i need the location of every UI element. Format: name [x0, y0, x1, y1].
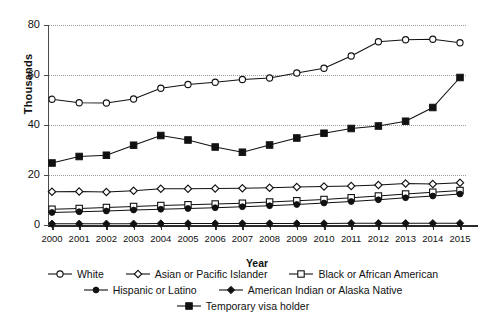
data-point [130, 142, 137, 149]
chart-legend: WhiteAsian or Pacific IslanderBlack or A… [10, 268, 476, 316]
data-point [457, 191, 463, 197]
data-point [321, 200, 327, 206]
series-layer [48, 25, 466, 225]
data-point [184, 185, 191, 192]
data-point [403, 195, 409, 201]
data-point [76, 100, 82, 106]
legend-marker-icon [177, 300, 201, 312]
data-point [185, 81, 191, 87]
data-point [103, 188, 110, 195]
data-point [456, 179, 463, 186]
data-point [131, 96, 137, 102]
legend-marker-icon [84, 284, 108, 296]
legend-row: Temporary visa holder [10, 300, 476, 312]
data-point [294, 70, 300, 76]
data-point [130, 187, 137, 194]
data-point [348, 53, 354, 59]
data-point [49, 160, 56, 167]
data-point [131, 207, 137, 213]
series-line [52, 183, 460, 192]
legend-label: Black or African American [318, 268, 438, 280]
y-tick-label: 40 [6, 118, 40, 130]
legend-item[interactable]: Hispanic or Latino [84, 284, 197, 296]
legend-marker-icon [219, 284, 243, 296]
data-point [158, 206, 164, 212]
data-point [293, 183, 300, 190]
data-point [320, 183, 327, 190]
data-point [267, 203, 273, 209]
legend-label: American Indian or Alaska Native [248, 284, 403, 296]
data-point [375, 123, 382, 130]
data-point [103, 152, 110, 159]
legend-label: Asian or Pacific Islander [155, 268, 268, 280]
series-line [52, 78, 460, 164]
series-3 [49, 187, 463, 212]
y-tick-label: 0 [6, 218, 40, 230]
legend-item[interactable]: Black or African American [289, 268, 438, 280]
legend-label: Temporary visa holder [206, 300, 309, 312]
data-point [212, 144, 219, 151]
data-point [348, 125, 355, 132]
data-point [157, 185, 164, 192]
plot-area: 020406080 200020012002200320042005200620… [48, 25, 466, 225]
data-point [375, 181, 382, 188]
data-point [430, 36, 436, 42]
data-point [76, 209, 82, 215]
data-point [376, 197, 382, 203]
data-point [457, 74, 464, 81]
data-point [402, 118, 409, 125]
y-tick-label: 20 [6, 168, 40, 180]
data-point [267, 75, 273, 81]
series-6 [49, 74, 464, 166]
data-point [430, 104, 437, 111]
y-tick-label: 80 [6, 18, 40, 30]
legend-marker-icon [289, 268, 313, 280]
data-point [429, 180, 436, 187]
legend-item[interactable]: White [48, 268, 104, 280]
legend-label: White [77, 268, 104, 280]
data-point [457, 40, 463, 46]
data-point [103, 100, 109, 106]
data-point [403, 37, 409, 43]
legend-marker-icon [126, 268, 150, 280]
legend-row: Hispanic or LatinoAmerican Indian or Ala… [10, 284, 476, 296]
data-point [348, 182, 355, 189]
series-2 [48, 179, 463, 196]
data-point [321, 65, 327, 71]
legend-row: WhiteAsian or Pacific IslanderBlack or A… [10, 268, 476, 280]
data-point [49, 210, 55, 216]
data-point [321, 130, 328, 137]
legend-item[interactable]: American Indian or Alaska Native [219, 284, 403, 296]
data-point [48, 188, 55, 195]
data-point [185, 206, 191, 212]
legend-item[interactable]: Asian or Pacific Islander [126, 268, 268, 280]
data-point [212, 205, 218, 211]
series-line [52, 223, 460, 224]
series-line [52, 39, 460, 103]
data-point [212, 79, 218, 85]
data-point [294, 135, 301, 142]
x-tick-label: 2015 [440, 233, 480, 244]
legend-item[interactable]: Temporary visa holder [177, 300, 309, 312]
data-point [266, 184, 273, 191]
data-point [402, 180, 409, 187]
y-tick-mark [44, 225, 49, 226]
chart-container: Thousands 020406080 20002001200220032004… [0, 0, 486, 331]
data-point [240, 204, 246, 210]
data-point [239, 76, 245, 82]
data-point [239, 185, 246, 192]
legend-label: Hispanic or Latino [113, 284, 197, 296]
data-point [294, 202, 300, 208]
data-point [239, 149, 246, 156]
data-point [348, 199, 354, 205]
x-axis-line [48, 225, 478, 227]
data-point [158, 85, 164, 91]
data-point [158, 132, 165, 139]
data-point [49, 96, 55, 102]
legend-marker-icon [48, 268, 72, 280]
data-point [212, 185, 219, 192]
series-1 [49, 36, 463, 106]
data-point [76, 188, 83, 195]
data-point [430, 193, 436, 199]
data-point [375, 39, 381, 45]
